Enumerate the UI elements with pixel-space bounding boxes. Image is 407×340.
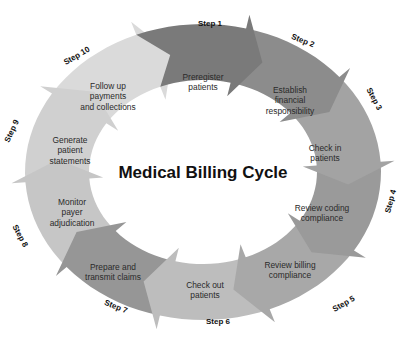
step-5-description: Review billingcompliance xyxy=(264,260,316,281)
step-4-description: Review codingcompliance xyxy=(295,203,350,224)
diagram-title: Medical Billing Cycle xyxy=(118,163,287,182)
step-1-description: Preregisterpatients xyxy=(183,72,224,93)
step-4-label: Step 4 xyxy=(383,188,398,214)
step-6-description: Check outpatients xyxy=(186,280,224,301)
step-3-label: Step 3 xyxy=(365,86,384,112)
step-7-description: Prepare andtransmit claims xyxy=(85,262,141,283)
step-8-label: Step 8 xyxy=(11,223,30,249)
step-1-label: Step 1 xyxy=(198,19,223,28)
medical-billing-cycle-diagram: PreregisterpatientsStep 1Establishfinanc… xyxy=(0,0,407,340)
step-3-description: Check inpatients xyxy=(309,143,342,164)
step-9-label: Step 9 xyxy=(3,118,22,144)
step-6-label: Step 6 xyxy=(206,317,231,326)
step-5-label: Step 5 xyxy=(331,294,357,314)
